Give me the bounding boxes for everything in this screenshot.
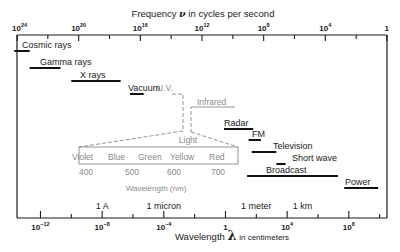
optical-region: U.V. Infrared Light VioletBlueGreenYello…: [72, 83, 238, 193]
infrared-bracket: [191, 107, 193, 132]
unit-labels: 1 A1 micron1 meter1 km: [96, 201, 313, 211]
band-broadcast: Broadcast: [247, 165, 338, 176]
top-tick-label: 108: [258, 22, 270, 33]
visible-color-label: Red: [209, 152, 225, 162]
visible-color-label: Violet: [72, 152, 94, 162]
zoom-line-left: [79, 131, 183, 147]
unit-label: 1 meter: [241, 201, 272, 211]
band-label: Television: [273, 141, 313, 151]
top-tick-label: 1: [385, 24, 390, 33]
band-radar: Radar: [224, 118, 253, 129]
visible-color-label: Yellow: [170, 152, 195, 162]
band-fm: FM: [249, 129, 265, 140]
band-cosmic-rays: Cosmic rays: [14, 40, 72, 51]
band-label: Gamma rays: [40, 57, 92, 67]
infrared-label: Infrared: [197, 97, 227, 107]
bottom-axis-title: Wavelength λ in centimeters: [175, 228, 289, 243]
visible-axis-label: Wavelength (nm): [126, 184, 187, 193]
band-gamma-rays: Gamma rays: [30, 57, 92, 68]
visible-color-label: Green: [138, 152, 162, 162]
visible-color-label: Blue: [108, 152, 125, 162]
unit-label: 1 A: [96, 201, 109, 211]
visible-tick-label: 400: [79, 167, 93, 177]
band-power: Power: [344, 177, 378, 188]
top-tick-label: 1020: [71, 22, 86, 33]
visible-tick-label: 600: [167, 167, 181, 177]
band-label: Vacuum: [128, 83, 160, 93]
bottom-tick-label: 104: [281, 221, 294, 232]
bottom-tick-label: 10−8: [95, 221, 110, 232]
electromagnetic-spectrum-diagram: Frequency ν in cycles per second 1024102…: [0, 0, 400, 252]
top-axis-title-text: Frequency: [132, 8, 177, 19]
top-tick-label: 1016: [133, 22, 148, 33]
uv-label: U.V.: [157, 83, 173, 93]
visible-tick-label: 500: [125, 167, 139, 177]
band-label: Short wave: [292, 153, 337, 163]
bottom-tick-label: 108: [343, 221, 355, 232]
visible-tick-label: 700: [211, 167, 225, 177]
top-axis-ticks: 10241020101610121081041: [12, 22, 390, 41]
band-label: Radar: [224, 118, 249, 128]
bottom-axis-title-text: Wavelength: [175, 231, 225, 242]
unit-label: 1 micron: [147, 201, 182, 211]
bottom-tick-label: 10−12: [31, 221, 49, 232]
visible-colors: VioletBlueGreenYellowRed: [72, 152, 225, 162]
spectrum-bands: Cosmic raysGamma raysX raysVacuumRadarFM…: [14, 40, 378, 188]
band-label: Broadcast: [266, 165, 307, 175]
top-axis-title: Frequency ν in cycles per second: [132, 8, 275, 19]
band-label: X rays: [80, 70, 106, 80]
bottom-tick-label: 10−4: [156, 221, 172, 232]
unit-label: 1 km: [293, 201, 313, 211]
band-label: Cosmic rays: [22, 40, 72, 50]
band-label: Power: [345, 177, 371, 187]
top-tick-label: 104: [319, 22, 332, 33]
top-tick-label: 1024: [12, 22, 28, 33]
zoom-line-right: [191, 132, 238, 147]
band-short-wave: Short wave: [276, 153, 337, 164]
visible-wavelength-ticks: 400500600700: [79, 167, 225, 177]
top-axis-title-unit: in cycles per second: [188, 8, 274, 19]
frequency-symbol: ν: [179, 8, 186, 19]
bottom-axis-title-unit: in centimeters: [239, 233, 289, 242]
bottom-axis-ticks: 10−1210−810−41104108: [31, 211, 379, 232]
uv-bracket: [172, 94, 183, 130]
wavelength-symbol: λ: [227, 228, 236, 243]
band-x-rays: X rays: [71, 70, 120, 81]
band-label: FM: [252, 129, 265, 139]
band-television: Television: [252, 141, 313, 152]
band-vacuum: Vacuum: [128, 83, 160, 94]
light-label: Light: [179, 135, 198, 145]
top-tick-label: 1012: [194, 22, 209, 33]
